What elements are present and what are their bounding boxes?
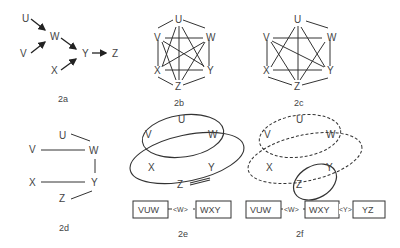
clique-label: VUW — [138, 205, 160, 215]
node-y: Y — [326, 162, 333, 173]
node-w: W — [206, 32, 216, 43]
node-w: W — [327, 32, 337, 43]
figure-2f-cliques — [243, 109, 366, 207]
figure-2d-graph — [41, 134, 95, 199]
caption-2c: 2c — [294, 98, 304, 108]
caption-2f: 2f — [296, 229, 304, 239]
node-v: V — [145, 129, 152, 140]
node-x: X — [51, 65, 58, 76]
separator-label: <Y> — [339, 206, 352, 213]
node-z: Z — [177, 179, 183, 190]
node-u: U — [294, 14, 301, 25]
node-x: X — [29, 177, 36, 188]
node-y: Y — [82, 48, 89, 59]
caption-2b: 2b — [174, 98, 184, 108]
graph-figures: U V W X Y Z 2a U V W X Y Z 2b U V W X Y … — [0, 0, 400, 248]
node-x: X — [263, 65, 270, 76]
clique-label: VUW — [250, 205, 272, 215]
node-z: Z — [294, 81, 300, 92]
node-z: Z — [175, 81, 181, 92]
clique-label: YZ — [362, 205, 374, 215]
figure-2b-graph — [158, 20, 209, 85]
node-w: W — [50, 31, 60, 42]
node-w: W — [208, 129, 218, 140]
node-u: U — [175, 14, 182, 25]
node-v: V — [20, 48, 27, 59]
node-u: U — [178, 114, 185, 125]
node-v: V — [29, 144, 36, 155]
node-z: Z — [296, 179, 302, 190]
node-x: X — [154, 65, 161, 76]
node-v: V — [264, 129, 271, 140]
figure-2a-dag — [31, 19, 106, 70]
node-v: V — [154, 32, 161, 43]
node-u: U — [296, 114, 303, 125]
caption-2a: 2a — [58, 94, 68, 104]
node-y: Y — [91, 177, 98, 188]
node-u: U — [59, 130, 66, 141]
separator-label: <W> — [173, 206, 188, 213]
node-w: W — [89, 145, 99, 156]
node-y: Y — [327, 65, 334, 76]
node-v: V — [263, 32, 270, 43]
caption-2e: 2e — [178, 229, 188, 239]
node-w: W — [326, 129, 336, 140]
node-x: X — [148, 162, 155, 173]
clique-label: WXY — [200, 205, 221, 215]
node-y: Y — [208, 162, 215, 173]
figure-2e-cliques — [125, 109, 248, 192]
figure-2c-graph — [267, 21, 330, 85]
node-u: U — [22, 13, 29, 24]
caption-2d: 2d — [59, 223, 69, 233]
clique-label: WXY — [309, 205, 330, 215]
node-y: Y — [207, 65, 214, 76]
node-z: Z — [59, 193, 65, 204]
node-z: Z — [112, 48, 118, 59]
node-x: X — [266, 162, 273, 173]
separator-label: <W> — [284, 206, 299, 213]
